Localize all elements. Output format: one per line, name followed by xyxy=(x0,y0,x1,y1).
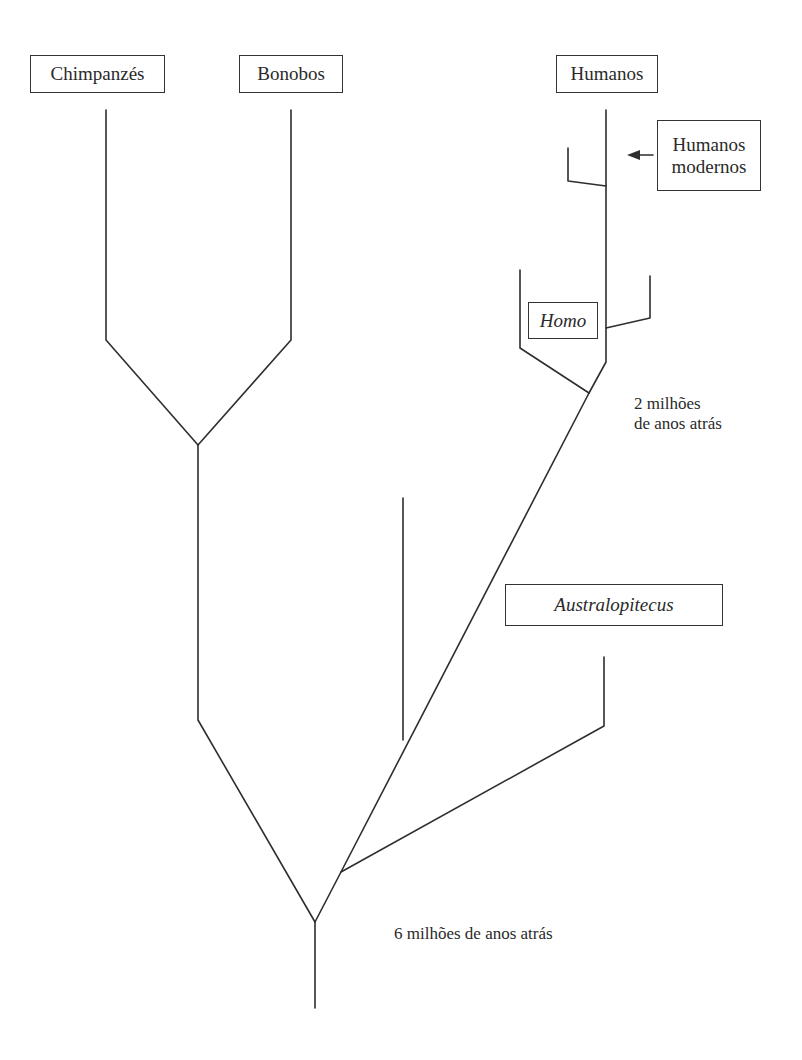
chimpanzee-branch-line xyxy=(106,110,198,445)
chimpanzees-label: Chimpanzés xyxy=(51,63,145,85)
modern-humans-label-line1: Humanos xyxy=(673,134,746,156)
australopithecus-box: Australopitecus xyxy=(505,584,723,626)
homo-label: Homo xyxy=(540,310,586,332)
two-million-line2: de anos atrás xyxy=(634,414,722,434)
six-million-years-label: 6 milhões de anos atrás xyxy=(394,924,553,944)
humans-label: Humanos xyxy=(571,63,644,85)
six-million-text: 6 milhões de anos atrás xyxy=(394,924,553,943)
arrow-left-icon xyxy=(627,150,640,160)
australopithecus-branch-line xyxy=(341,657,604,872)
homo-box: Homo xyxy=(528,302,598,339)
archaic-human-branch-line xyxy=(568,148,606,186)
human-lineage-line xyxy=(315,393,589,922)
chimpanzees-box: Chimpanzés xyxy=(30,55,165,93)
homo-right-branch-line xyxy=(606,276,650,328)
humans-main-line xyxy=(589,110,606,393)
humans-box: Humanos xyxy=(556,55,658,93)
chimp-bonobo-lineage-line xyxy=(198,445,315,922)
modern-humans-box: Humanos modernos xyxy=(657,120,761,191)
australopithecus-label: Australopitecus xyxy=(554,594,673,616)
two-million-line1: 2 milhões xyxy=(634,394,722,414)
bonobos-box: Bonobos xyxy=(239,55,343,93)
bonobos-label: Bonobos xyxy=(257,63,325,85)
bonobo-branch-line xyxy=(198,110,291,445)
modern-humans-label-line2: modernos xyxy=(672,156,747,178)
two-million-years-label: 2 milhões de anos atrás xyxy=(634,394,722,435)
